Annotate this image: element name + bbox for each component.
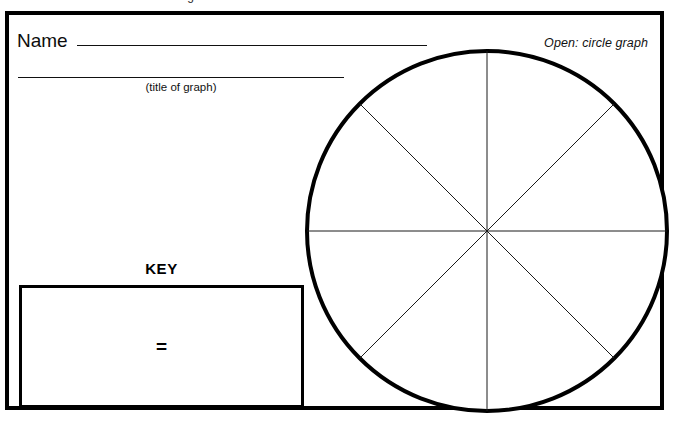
worksheet-page: descenders of a cut-off heading line Nam… bbox=[0, 0, 678, 426]
cut-off-text-strip: descenders of a cut-off heading line bbox=[0, 0, 678, 6]
name-label: Name bbox=[17, 31, 68, 50]
graph-title-field: (title of graph) bbox=[18, 77, 344, 94]
sector-divider-lines bbox=[307, 51, 667, 411]
graph-title-caption: (title of graph) bbox=[18, 81, 344, 94]
worksheet-frame: Name Open: circle graph (title of graph)… bbox=[5, 11, 664, 410]
graph-title-input-rule[interactable] bbox=[18, 77, 344, 78]
cut-off-text: descenders of a cut-off heading line bbox=[14, 0, 218, 3]
key-equals-sign: = bbox=[22, 288, 301, 405]
circle-graph-svg bbox=[301, 45, 673, 417]
circle-graph-group bbox=[307, 51, 667, 411]
key-heading: KEY bbox=[19, 260, 304, 277]
circle-graph[interactable] bbox=[301, 45, 673, 417]
key-box[interactable]: = bbox=[19, 285, 304, 408]
